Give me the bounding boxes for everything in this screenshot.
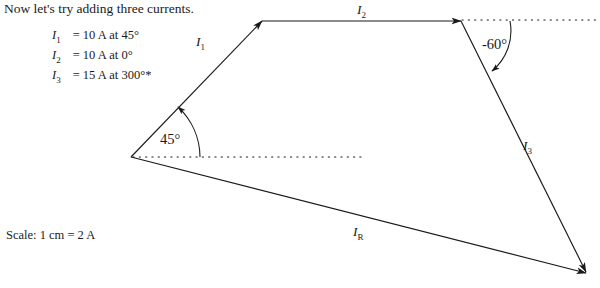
diagram-stage: Now let's try adding three currents. I1 … [0,0,600,288]
angle-label-minus-60: -60° [482,36,507,53]
vector-ir-resultant-arrow [131,157,586,273]
vector-label-i3: I3 [523,138,532,156]
angle-label-45: 45° [160,131,180,148]
vector-label-ir: IR [353,224,364,242]
vector-label-sub: 1 [201,42,206,52]
vector-diagram [0,0,600,288]
vector-label-sub: 2 [362,10,367,20]
vector-label-sub: R [358,232,364,242]
vector-label-i2: I2 [357,2,366,20]
angle-45-arc [178,107,200,157]
vector-label-sub: 3 [528,146,533,156]
vector-label-i1: I1 [196,34,205,52]
